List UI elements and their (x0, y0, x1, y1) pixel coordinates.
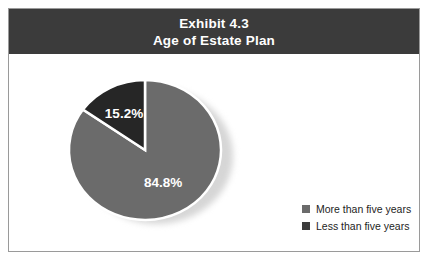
pie-label-less-than-five-years: 15.2% (105, 106, 143, 121)
exhibit-subject-title: Age of Estate Plan (153, 32, 275, 49)
legend-swatch-icon (301, 204, 311, 214)
pie-chart: 84.8% 15.2% (69, 78, 221, 223)
legend-swatch-icon (301, 221, 311, 231)
chart-header-band: Exhibit 4.3 Age of Estate Plan (9, 9, 419, 54)
legend-item-less-than-five-years[interactable]: Less than five years (301, 218, 419, 233)
exhibit-number-title: Exhibit 4.3 (179, 15, 249, 32)
chart-legend: More than five years Less than five year… (301, 201, 419, 235)
legend-item-label: Less than five years (316, 220, 409, 232)
exhibit-figure: Exhibit 4.3 Age of Estate Plan 84.8% 15.… (8, 8, 420, 252)
legend-item-more-than-five-years[interactable]: More than five years (301, 201, 419, 216)
chart-plot-area: 84.8% 15.2% More than five years Less th… (9, 54, 419, 251)
pie-chart-svg: 84.8% 15.2% (69, 78, 221, 223)
legend-item-label: More than five years (316, 203, 411, 215)
pie-label-more-than-five-years: 84.8% (144, 175, 182, 190)
